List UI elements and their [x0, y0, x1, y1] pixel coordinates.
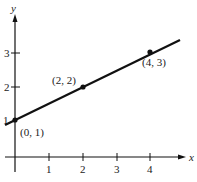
- x-tick-label: 4: [147, 163, 153, 175]
- data-point: [80, 84, 85, 89]
- x-tick-label: 1: [46, 163, 52, 175]
- line-chart: y x 1 2 3 4 1 2 3 (0, 1) (2, 2) (4, 3): [0, 0, 197, 182]
- x-ticks: 1 2 3 4: [46, 153, 153, 175]
- data-line: [5, 40, 180, 125]
- x-tick-label: 3: [114, 163, 120, 175]
- point-label: (4, 3): [142, 56, 166, 69]
- y-axis-label: y: [10, 2, 16, 14]
- x-axis-arrow-icon: [178, 155, 186, 160]
- y-axis-arrow-icon: [13, 14, 18, 22]
- x-axis-label: x: [188, 151, 194, 163]
- x-tick-label: 2: [80, 163, 86, 175]
- data-point: [147, 49, 152, 54]
- point-label: (0, 1): [20, 126, 44, 139]
- point-label: (2, 2): [52, 74, 76, 87]
- data-point: [12, 117, 17, 122]
- y-tick-label: 3: [4, 47, 10, 59]
- y-tick-label: 2: [4, 81, 10, 93]
- y-ticks: 1 2 3: [3, 47, 20, 126]
